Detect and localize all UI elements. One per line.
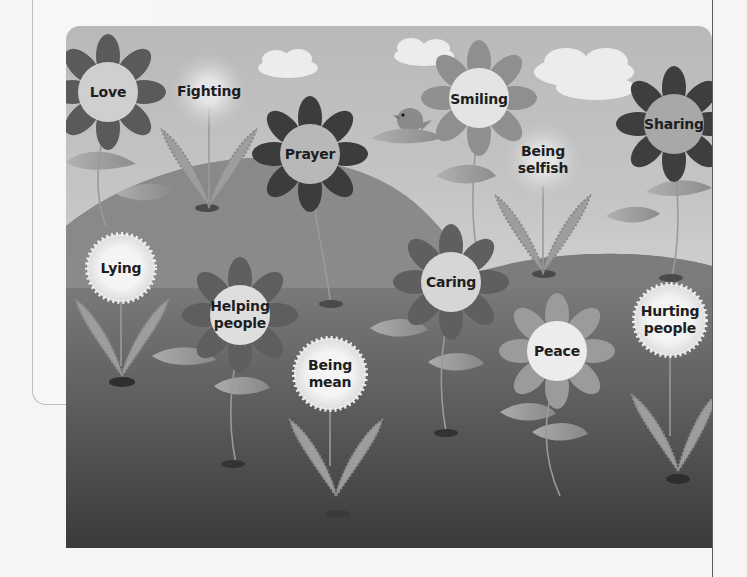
label-line: people: [210, 315, 269, 332]
label-line: Being: [308, 357, 352, 374]
weed-label-lying: Lying: [101, 260, 142, 277]
flower-label-peace: Peace: [534, 343, 580, 360]
weed-label-hurting-people: Hurting people: [641, 303, 700, 337]
label-line: mean: [308, 374, 352, 391]
flower-label-caring: Caring: [426, 274, 476, 291]
flower-label-smiling: Smiling: [450, 91, 508, 108]
garden-scene-graphic: [66, 26, 712, 548]
label-line: people: [641, 320, 700, 337]
weed-label-being-selfish: Being selfish: [518, 143, 568, 177]
garden-illustration: Love Fighting Prayer Smiling Being selfi…: [66, 26, 712, 548]
label-line: Helping: [210, 298, 269, 315]
weed-label-fighting: Fighting: [177, 83, 241, 100]
flower-label-love: Love: [90, 84, 126, 101]
flower-label-sharing: Sharing: [644, 116, 704, 133]
flower-label-helping-people: Helping people: [210, 298, 269, 332]
flower-label-prayer: Prayer: [285, 146, 336, 163]
label-line: selfish: [518, 160, 568, 177]
weed-label-being-mean: Being mean: [308, 357, 352, 391]
page-margin-rule: [712, 0, 713, 577]
label-line: Being: [518, 143, 568, 160]
label-line: Hurting: [641, 303, 700, 320]
bird-icon: [372, 108, 442, 143]
